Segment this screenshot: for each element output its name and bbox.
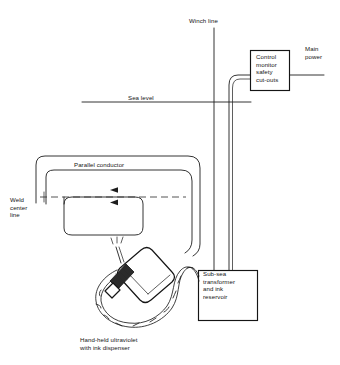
- label-control-monitor-box: Control monitor safety cut-outs: [256, 53, 278, 83]
- label-sea-level: Sea level: [128, 94, 154, 102]
- diagram-canvas: [0, 0, 340, 365]
- label-hand-held-device: Hand-held ultraviolet with ink dispenser: [80, 336, 138, 351]
- label-main-power: Main power: [305, 45, 322, 60]
- parallel-conductor-inner-loop: [46, 170, 192, 253]
- label-sub-sea-transformer-box: Sub-sea transformer and ink reservoir: [203, 270, 235, 300]
- current-arrow-upper: [110, 187, 118, 193]
- current-arrow-lower: [110, 200, 118, 206]
- uv-device-emitter-stem: [116, 247, 121, 263]
- uv-light-rays-icon: [111, 237, 123, 244]
- label-weld-center-line: Weld center line: [10, 196, 27, 219]
- label-winch-line: Winch line: [189, 17, 218, 25]
- parallel-conductor-outer-loop: [36, 156, 200, 256]
- lower-conductor-loop: [64, 197, 143, 235]
- diagram-root: Winch line Sea level Control monitor saf…: [0, 0, 340, 365]
- label-parallel-conductor: Parallel conductor: [74, 161, 124, 169]
- control-to-subsea-cable-second: [233, 79, 252, 271]
